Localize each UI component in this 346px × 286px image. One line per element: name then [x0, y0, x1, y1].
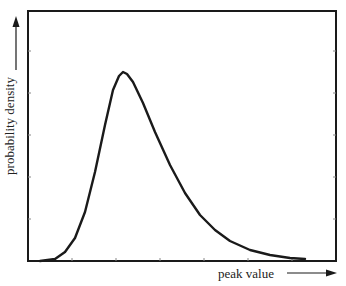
y-axis-ticks: [28, 51, 336, 219]
y-axis-label: probability density: [2, 56, 18, 196]
x-axis-arrow-icon: [287, 270, 337, 277]
plot-frame: [28, 11, 336, 261]
chart-canvas: [0, 0, 346, 286]
density-curve: [40, 72, 305, 261]
x-axis-label: peak value: [218, 266, 274, 282]
